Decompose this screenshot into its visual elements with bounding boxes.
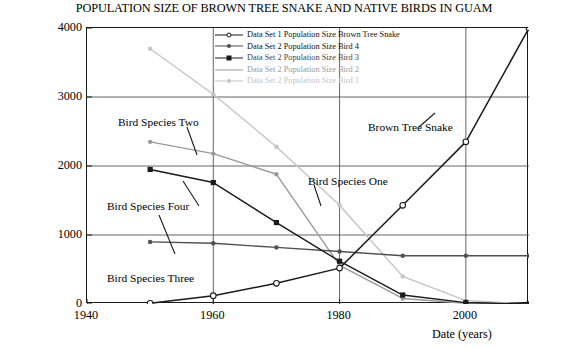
data-point — [211, 241, 215, 245]
data-point — [337, 249, 341, 253]
data-point — [274, 144, 278, 148]
annotation-bird-species-one: Bird Species One — [308, 175, 388, 187]
filled-square-icon — [215, 52, 243, 63]
data-point — [148, 47, 152, 51]
legend-item: Data Set 2 Population Size Bird 3 — [215, 52, 400, 64]
legend-marker — [227, 55, 232, 60]
legend-item: Data Set 1 Population Size Brown Tree Sn… — [215, 29, 400, 41]
data-point — [211, 92, 215, 96]
series-bird-species-three — [148, 240, 529, 258]
legend-item: Data Set 2 Population Size Bird 1 — [215, 75, 400, 87]
y-tick-label: 4000 — [58, 20, 82, 35]
chart-root: POPULATION SIZE OF BROWN TREE SNAKE AND … — [0, 0, 568, 348]
open-circle-icon — [215, 29, 243, 40]
data-point — [274, 172, 278, 176]
data-point — [147, 301, 153, 304]
data-point — [274, 245, 278, 249]
chart-title: POPULATION SIZE OF BROWN TREE SNAKE AND … — [0, 1, 568, 16]
legend-label: Data Set 2 Population Size Bird 1 — [247, 75, 359, 87]
data-point — [210, 293, 216, 299]
data-point — [337, 265, 343, 271]
data-point — [274, 281, 280, 287]
data-point — [400, 203, 406, 209]
data-point — [400, 292, 405, 297]
data-point — [463, 139, 469, 145]
annotation-bird-species-four: Bird Species Four — [107, 200, 189, 212]
legend-label: Data Set 1 Population Size Brown Tree Sn… — [247, 29, 400, 41]
line-icon — [215, 64, 243, 75]
legend-label: Data Set 2 Population Size Bird 3 — [247, 52, 359, 64]
data-point — [526, 301, 529, 304]
data-point — [401, 254, 405, 258]
legend-item: Data Set 2 Population Size Bird 2 — [215, 64, 400, 76]
data-point — [337, 203, 341, 207]
legend-label: Data Set 2 Population Size Bird 2 — [247, 64, 359, 76]
legend-marker — [227, 79, 231, 83]
annotation-bird-species-two: Bird Species Two — [118, 116, 199, 128]
data-point — [337, 259, 342, 264]
x-tick-label: 1960 — [200, 308, 224, 323]
annotation-leader-line — [159, 215, 175, 254]
x-tick-label: 1980 — [326, 308, 350, 323]
x-tick-label: 1940 — [74, 308, 98, 323]
y-tick-label: 2000 — [58, 158, 82, 173]
x-axis-title: Date (years) — [432, 327, 492, 342]
data-point — [526, 28, 529, 31]
data-point — [148, 167, 153, 172]
filled-circle-icon — [215, 76, 243, 87]
series-bird-species-two — [148, 140, 529, 304]
data-point — [211, 151, 215, 155]
y-tick-label: 3000 — [58, 89, 82, 104]
data-point — [527, 254, 529, 258]
legend-item: Data Set 2 Population Size Bird 4 — [215, 41, 400, 53]
annotation-leader-line — [314, 185, 321, 206]
filled-circle-icon — [215, 41, 243, 52]
data-point — [148, 240, 152, 244]
annotation-brown-tree-snake: Brown Tree Snake — [368, 121, 453, 133]
data-point — [274, 220, 279, 225]
legend-marker — [227, 32, 232, 37]
data-point — [148, 140, 152, 144]
data-point — [464, 254, 468, 258]
y-tick-label: 1000 — [58, 227, 82, 242]
legend-label: Data Set 2 Population Size Bird 4 — [247, 41, 359, 53]
data-point — [401, 274, 405, 278]
x-tick-label: 2000 — [453, 308, 477, 323]
annotation-leader-line — [187, 127, 197, 155]
legend: Data Set 1 Population Size Brown Tree Sn… — [215, 29, 400, 87]
legend-marker — [227, 44, 231, 48]
data-point — [211, 180, 216, 185]
annotation-bird-species-three: Bird Species Three — [107, 272, 194, 284]
